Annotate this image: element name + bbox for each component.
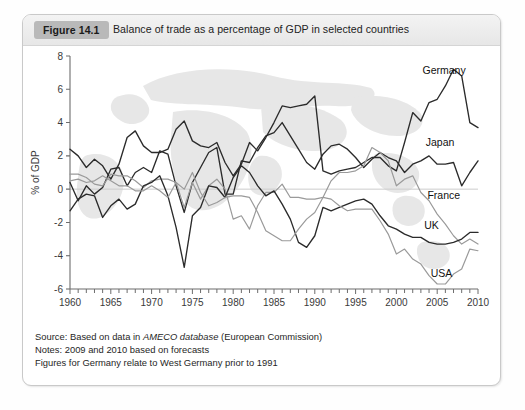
- x-axis-tick-label: 2000: [385, 297, 408, 308]
- figure-notes: Source: Based on data in AMECO database …: [35, 330, 485, 370]
- figure-page: Figure 14.1 Balance of trade as a percen…: [0, 0, 525, 410]
- figure-caption: Balance of trade as a percentage of GDP …: [113, 23, 409, 35]
- y-axis-tick-label: 0: [57, 184, 63, 195]
- x-axis-tick-label: 2005: [426, 297, 449, 308]
- note-forecasts: Notes: 2009 and 2010 based on forecasts: [35, 343, 485, 356]
- x-axis-tick-label: 2010: [467, 297, 490, 308]
- note-germany: Figures for Germany relate to West Germa…: [35, 356, 485, 369]
- x-axis-tick-label: 1965: [100, 297, 123, 308]
- figure-number-badge: Figure 14.1: [34, 21, 109, 39]
- x-axis-tick-label: 1970: [140, 297, 163, 308]
- y-axis-tick-label: 6: [57, 84, 63, 95]
- note-source: Source: Based on data in AMECO database …: [35, 330, 485, 343]
- x-axis-tick-label: 1980: [222, 297, 245, 308]
- y-axis-tick-label: -4: [54, 250, 63, 261]
- x-axis-tick-label: 1985: [263, 297, 286, 308]
- chart-plot-area: 86420-2-4-6% of GDP196019651970197519801…: [23, 46, 500, 343]
- series-label-usa: USA: [431, 267, 453, 279]
- note-source-prefix: Source: Based on data in: [35, 331, 143, 342]
- y-axis-tick-label: -6: [54, 284, 63, 295]
- series-label-germany: Germany: [423, 64, 467, 76]
- series-label-uk: UK: [424, 219, 439, 231]
- y-axis-tick-label: 8: [57, 51, 63, 62]
- y-axis-tick-label: 4: [57, 117, 63, 128]
- y-axis-tick-label: 2: [57, 150, 63, 161]
- figure-panel: Figure 14.1 Balance of trade as a percen…: [22, 14, 501, 386]
- series-label-japan: Japan: [426, 136, 455, 148]
- x-axis-tick-label: 1995: [344, 297, 367, 308]
- note-source-suffix: (European Commission): [218, 331, 322, 342]
- figure-header: Figure 14.1 Balance of trade as a percen…: [23, 15, 500, 46]
- line-chart: 86420-2-4-6% of GDP196019651970197519801…: [23, 46, 501, 343]
- x-axis-tick-label: 1975: [181, 297, 204, 308]
- y-axis-tick-label: -2: [54, 217, 63, 228]
- note-source-italic: AMECO database: [143, 331, 219, 342]
- y-axis-title: % of GDP: [30, 150, 41, 195]
- series-label-france: France: [427, 189, 460, 201]
- x-axis-tick-label: 1960: [59, 297, 82, 308]
- x-axis-tick-label: 1990: [304, 297, 327, 308]
